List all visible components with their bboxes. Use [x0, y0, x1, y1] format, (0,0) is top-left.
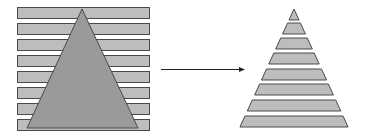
transform-arrow: [161, 67, 245, 72]
pyramid-slice-4: [269, 53, 319, 64]
pyramid-slices-group: [240, 9, 348, 127]
pyramid-slice-3: [276, 38, 313, 49]
pyramid-slice-6: [255, 84, 334, 95]
pyramid-slice-7: [247, 100, 341, 111]
arrow-head-icon: [239, 67, 245, 72]
pyramid-slice-2: [283, 23, 306, 34]
pyramid-slice-8: [240, 116, 348, 127]
pyramid-slice-5: [261, 69, 326, 80]
pyramid-slice-1: [289, 9, 299, 20]
stripes-to-pyramid-diagram: [0, 0, 366, 139]
